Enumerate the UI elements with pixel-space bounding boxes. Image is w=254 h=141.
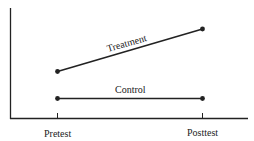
series-control: Control xyxy=(55,84,205,101)
chart: Treatment Control Pretest Posttest xyxy=(0,0,254,141)
treatment-posttest-point xyxy=(200,27,205,32)
x-tick-label-posttest: Posttest xyxy=(187,127,218,138)
series-treatment: Treatment xyxy=(55,27,205,74)
x-tick-label-pretest: Pretest xyxy=(44,128,71,139)
control-posttest-point xyxy=(200,96,205,101)
control-label: Control xyxy=(115,84,146,95)
treatment-pretest-point xyxy=(55,69,60,74)
control-pretest-point xyxy=(55,96,60,101)
